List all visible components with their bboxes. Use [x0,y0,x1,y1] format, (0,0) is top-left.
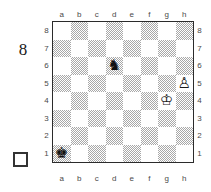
file-label-h: h [176,173,194,185]
square-g4[interactable]: ♔ [158,92,176,110]
square-g8[interactable] [158,22,176,40]
file-label-c: c [88,173,106,185]
square-c2[interactable] [88,127,106,145]
black-knight-icon[interactable]: ♞ [106,57,124,75]
square-h8[interactable] [176,22,194,40]
square-a6[interactable] [53,57,71,75]
square-d8[interactable] [106,22,124,40]
square-g1[interactable] [158,145,176,163]
square-c3[interactable] [88,110,106,128]
file-labels-bottom: abcdefgh [53,173,193,185]
square-h5[interactable]: ♙ [176,75,194,93]
square-d4[interactable] [106,92,124,110]
square-a5[interactable] [53,75,71,93]
square-b5[interactable] [71,75,89,93]
rank-label-7: 7 [194,40,205,58]
square-b4[interactable] [71,92,89,110]
rank-label-2: 2 [41,127,52,145]
file-label-e: e [123,9,141,21]
rank-label-6: 6 [41,57,52,75]
square-f1[interactable] [141,145,159,163]
rank-label-5: 5 [41,75,52,93]
square-g7[interactable] [158,40,176,58]
rank-label-1: 1 [194,145,205,163]
square-e2[interactable] [123,127,141,145]
square-e6[interactable] [123,57,141,75]
rank-labels-right: 87654321 [194,22,205,162]
square-h1[interactable] [176,145,194,163]
square-b1[interactable] [71,145,89,163]
square-d6[interactable]: ♞ [106,57,124,75]
square-b6[interactable] [71,57,89,75]
square-e5[interactable] [123,75,141,93]
square-f2[interactable] [141,127,159,145]
white-pawn-icon[interactable]: ♙ [176,75,194,93]
square-b7[interactable] [71,40,89,58]
chess-diagram: 8 abcdefgh 87654321 ♞♙♔♚ 87654321 abcdef… [0,0,211,192]
square-e1[interactable] [123,145,141,163]
square-b3[interactable] [71,110,89,128]
square-f7[interactable] [141,40,159,58]
square-h2[interactable] [176,127,194,145]
square-d5[interactable] [106,75,124,93]
square-b2[interactable] [71,127,89,145]
square-a7[interactable] [53,40,71,58]
square-c1[interactable] [88,145,106,163]
rank-label-4: 4 [194,92,205,110]
square-a2[interactable] [53,127,71,145]
square-d7[interactable] [106,40,124,58]
square-d1[interactable] [106,145,124,163]
file-label-g: g [158,173,176,185]
white-king-icon[interactable]: ♔ [158,92,176,110]
rank-label-7: 7 [41,40,52,58]
square-e8[interactable] [123,22,141,40]
square-f6[interactable] [141,57,159,75]
file-label-d: d [106,173,124,185]
file-label-f: f [141,173,159,185]
square-a1[interactable]: ♚ [53,145,71,163]
file-label-h: h [176,9,194,21]
rank-label-8: 8 [41,22,52,40]
square-d2[interactable] [106,127,124,145]
square-d3[interactable] [106,110,124,128]
rank-label-8: 8 [194,22,205,40]
file-label-a: a [53,173,71,185]
file-label-c: c [88,9,106,21]
file-label-d: d [106,9,124,21]
square-f3[interactable] [141,110,159,128]
file-label-b: b [71,173,89,185]
square-h4[interactable] [176,92,194,110]
square-c4[interactable] [88,92,106,110]
file-label-a: a [53,9,71,21]
square-g2[interactable] [158,127,176,145]
square-h6[interactable] [176,57,194,75]
square-g6[interactable] [158,57,176,75]
square-b8[interactable] [71,22,89,40]
file-label-b: b [71,9,89,21]
square-f4[interactable] [141,92,159,110]
square-a4[interactable] [53,92,71,110]
square-c7[interactable] [88,40,106,58]
square-e3[interactable] [123,110,141,128]
square-a8[interactable] [53,22,71,40]
square-c8[interactable] [88,22,106,40]
square-c6[interactable] [88,57,106,75]
black-king-icon[interactable]: ♚ [53,145,71,163]
rank-label-2: 2 [194,127,205,145]
rank-label-1: 1 [41,145,52,163]
square-e7[interactable] [123,40,141,58]
square-g3[interactable] [158,110,176,128]
square-g5[interactable] [158,75,176,93]
square-h3[interactable] [176,110,194,128]
square-a3[interactable] [53,110,71,128]
square-f8[interactable] [141,22,159,40]
square-h7[interactable] [176,40,194,58]
move-number-label: 8 [11,38,35,62]
square-e4[interactable] [123,92,141,110]
square-c5[interactable] [88,75,106,93]
rank-label-6: 6 [194,57,205,75]
rank-label-3: 3 [41,110,52,128]
chessboard[interactable]: ♞♙♔♚ [52,21,194,163]
square-f5[interactable] [141,75,159,93]
rank-label-5: 5 [194,75,205,93]
